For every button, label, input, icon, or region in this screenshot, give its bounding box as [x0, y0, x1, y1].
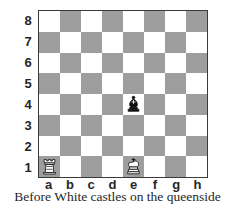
- board-square-f1: [144, 156, 165, 177]
- board-square-d7: [102, 32, 123, 53]
- black-bishop-icon: [123, 94, 144, 115]
- board-square-g5: [165, 73, 186, 94]
- board-square-h8: [186, 11, 207, 32]
- board-square-e7: [123, 32, 144, 53]
- board-square-c3: [81, 115, 102, 136]
- board-square-d3: [102, 115, 123, 136]
- board-square-a8: [39, 11, 60, 32]
- rank-label-axis: 8 7 6 5 4 3 2 1: [20, 10, 36, 178]
- board-square-b5: [60, 73, 81, 94]
- board-square-g8: [165, 11, 186, 32]
- board-square-b3: [60, 115, 81, 136]
- board-square-f7: [144, 32, 165, 53]
- board-square-g2: [165, 136, 186, 157]
- board-square-a1: [39, 156, 60, 177]
- diagram-caption: Before White castles on the queenside: [0, 190, 235, 205]
- board-square-e1: [123, 156, 144, 177]
- board-square-c4: [81, 94, 102, 115]
- board-square-c7: [81, 32, 102, 53]
- rank-label-6: 6: [20, 52, 36, 73]
- board-square-b8: [60, 11, 81, 32]
- board-square-h5: [186, 73, 207, 94]
- board-square-e4: [123, 94, 144, 115]
- board-square-b7: [60, 32, 81, 53]
- board-square-a7: [39, 32, 60, 53]
- rank-label-8: 8: [20, 10, 36, 31]
- board-square-g1: [165, 156, 186, 177]
- board-square-b6: [60, 53, 81, 74]
- board-square-a6: [39, 53, 60, 74]
- board-square-e8: [123, 11, 144, 32]
- board-square-b1: [60, 156, 81, 177]
- board-square-f6: [144, 53, 165, 74]
- board-square-d2: [102, 136, 123, 157]
- board-square-a4: [39, 94, 60, 115]
- board-square-g3: [165, 115, 186, 136]
- board-square-e5: [123, 73, 144, 94]
- board-square-b2: [60, 136, 81, 157]
- board-square-f4: [144, 94, 165, 115]
- chess-board: [38, 10, 208, 178]
- board-square-f2: [144, 136, 165, 157]
- rank-label-2: 2: [20, 136, 36, 157]
- board-square-h4: [186, 94, 207, 115]
- board-square-c1: [81, 156, 102, 177]
- rank-label-1: 1: [20, 157, 36, 178]
- board-square-f8: [144, 11, 165, 32]
- board-square-e3: [123, 115, 144, 136]
- board-square-e6: [123, 53, 144, 74]
- board-square-d5: [102, 73, 123, 94]
- board-square-e2: [123, 136, 144, 157]
- white-king-icon: [123, 156, 144, 177]
- board-square-h3: [186, 115, 207, 136]
- board-square-d6: [102, 53, 123, 74]
- rank-label-3: 3: [20, 115, 36, 136]
- board-square-d1: [102, 156, 123, 177]
- board-square-b4: [60, 94, 81, 115]
- rank-label-4: 4: [20, 94, 36, 115]
- board-square-d4: [102, 94, 123, 115]
- board-square-c8: [81, 11, 102, 32]
- board-square-d8: [102, 11, 123, 32]
- board-square-c5: [81, 73, 102, 94]
- board-square-g4: [165, 94, 186, 115]
- board-square-a3: [39, 115, 60, 136]
- board-square-f3: [144, 115, 165, 136]
- board-square-c2: [81, 136, 102, 157]
- rank-label-7: 7: [20, 31, 36, 52]
- chess-diagram-figure: 8 7 6 5 4 3 2 1 a b c d e f g h Before W…: [0, 0, 235, 210]
- rank-label-5: 5: [20, 73, 36, 94]
- board-square-a2: [39, 136, 60, 157]
- board-square-h6: [186, 53, 207, 74]
- board-square-h1: [186, 156, 207, 177]
- board-square-a5: [39, 73, 60, 94]
- board-square-g7: [165, 32, 186, 53]
- white-rook-icon: [39, 156, 60, 177]
- board-square-h2: [186, 136, 207, 157]
- board-square-g6: [165, 53, 186, 74]
- board-square-h7: [186, 32, 207, 53]
- board-square-f5: [144, 73, 165, 94]
- board-square-c6: [81, 53, 102, 74]
